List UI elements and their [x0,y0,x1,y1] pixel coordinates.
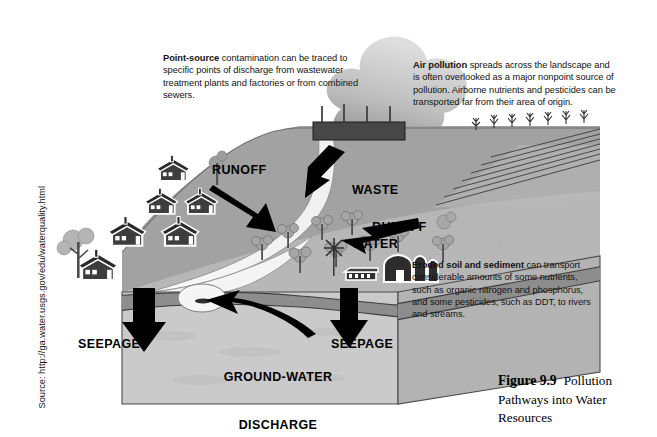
source-credit: Source: http://ga.water.usgs.gov/edu/wat… [37,194,47,409]
annotation-air-pollution-lead: Air pollution [413,60,467,70]
label-waste-water-line2: WATER [352,235,398,253]
label-waste-water: WASTE WATER [352,145,398,289]
label-groundwater-discharge-line1: GROUND-WATER [193,369,363,385]
annotation-eroded-soil: Eroded soil and sediment can transport c… [412,259,592,320]
label-runoff-left: RUNOFF [212,163,266,177]
annotation-air-pollution: Air pollution spreads across the landsca… [413,59,618,108]
label-waste-water-line1: WASTE [352,181,398,199]
annotation-point-source: Point-source contamination can be traced… [163,52,363,101]
label-seepage-left: SEEPAGE [78,337,140,351]
figure-canvas: Point-source contamination can be traced… [0,0,657,437]
figure-caption: Figure 9.9Pollution Pathways into Water … [498,372,650,428]
label-groundwater-discharge: GROUND-WATER DISCHARGE TO STREAMS [193,337,363,437]
label-groundwater-discharge-line2: DISCHARGE [193,417,363,433]
figure-number: Figure 9.9 [498,373,557,388]
annotation-point-source-lead: Point-source [163,53,219,63]
annotation-eroded-soil-lead: Eroded soil and sediment [412,260,524,270]
